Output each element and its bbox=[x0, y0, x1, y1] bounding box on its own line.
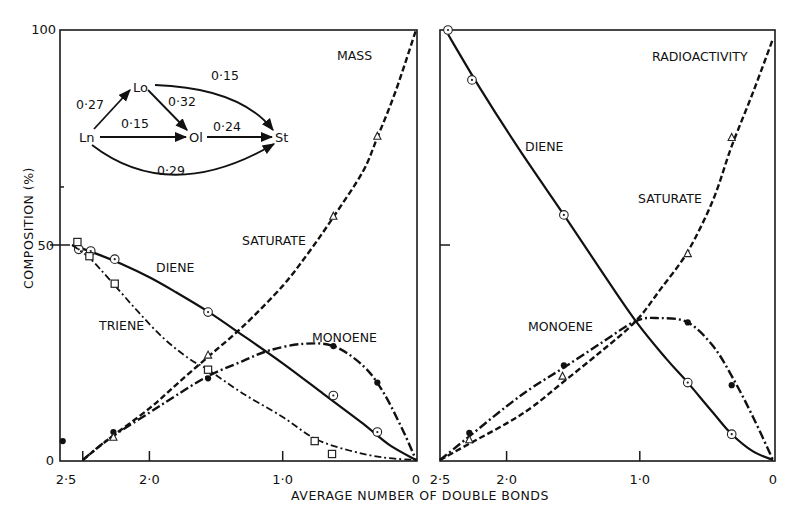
radioactivity-x-tick-label: 1·0 bbox=[629, 472, 650, 487]
diene-data-point bbox=[329, 391, 338, 400]
saturate-curve bbox=[440, 39, 773, 460]
monoene-curve-label: MONOENE bbox=[312, 330, 377, 345]
monoene-curve-label: MONOENE bbox=[528, 319, 593, 334]
radioactivity-diene-series: DIENE bbox=[444, 26, 773, 460]
triene-data-point bbox=[328, 450, 335, 457]
monoene-curve bbox=[83, 343, 416, 460]
monoene-data-point bbox=[374, 380, 380, 386]
mass-x-tick-label: 2·0 bbox=[139, 472, 160, 487]
rate-ol-st: 0·24 bbox=[213, 119, 241, 134]
triene-data-point bbox=[86, 253, 93, 260]
diene-data-point bbox=[727, 430, 736, 439]
mass-x-tick-label: 1·0 bbox=[272, 472, 293, 487]
figure: COMPOSITION (%) 100 50 0 2·52·01·00MASSD… bbox=[0, 0, 797, 513]
saturate-data-point bbox=[559, 372, 566, 379]
mass-x-tick-label: 2·5 bbox=[56, 472, 77, 487]
node-lo: Lo bbox=[133, 80, 148, 95]
radioactivity-monoene-series: MONOENE bbox=[440, 318, 773, 460]
monoene-data-point bbox=[561, 362, 567, 368]
rate-lo-st: 0·15 bbox=[211, 68, 239, 83]
triene-data-point bbox=[311, 437, 318, 444]
monoene-data-point bbox=[205, 375, 211, 381]
rate-ln-lo: 0·27 bbox=[76, 97, 104, 112]
diene-curve-label: DIENE bbox=[525, 139, 564, 154]
mass-plot-frame bbox=[60, 30, 417, 461]
node-st: St bbox=[275, 130, 288, 145]
node-ln: Ln bbox=[79, 130, 94, 145]
mass-triene-series: TRIENE bbox=[72, 238, 416, 460]
monoene-data-point bbox=[685, 319, 691, 325]
diene-data-point bbox=[373, 428, 382, 437]
mass-x-tick-label: 0 bbox=[412, 472, 420, 487]
monoene-data-point bbox=[729, 382, 735, 388]
diene-curve bbox=[448, 34, 773, 460]
diene-data-point bbox=[444, 26, 453, 35]
triene-data-point bbox=[204, 366, 211, 373]
y-tick-label-0: 0 bbox=[46, 453, 54, 468]
triene-data-point bbox=[111, 280, 118, 287]
y-tick-label-100: 100 bbox=[31, 22, 56, 37]
radioactivity-plot-frame bbox=[440, 30, 775, 461]
triene-data-point bbox=[74, 238, 81, 245]
radioactivity-x-tick-label: 2·5 bbox=[430, 472, 451, 487]
radioactivity-x-tick-label: 2·0 bbox=[496, 472, 517, 487]
diene-curve-label: DIENE bbox=[156, 260, 195, 275]
radioactivity-panel: 2·52·01·00RADIOACTIVITYDIENEMONOENESATUR… bbox=[430, 26, 777, 487]
saturate-curve-label: SATURATE bbox=[242, 233, 306, 248]
y-axis-label: COMPOSITION (%) bbox=[21, 167, 36, 289]
diene-data-point bbox=[560, 211, 569, 220]
monoene-curve bbox=[440, 318, 773, 460]
node-ol: Ol bbox=[189, 130, 203, 145]
mass-panel: 2·52·01·00MASSDIENETRIENEMONOENESATURATE bbox=[50, 30, 420, 487]
saturate-data-point bbox=[684, 250, 691, 257]
radioactivity-panel-title: RADIOACTIVITY bbox=[652, 49, 748, 64]
rate-ln-st: 0·29 bbox=[157, 163, 185, 178]
saturate-data-point bbox=[466, 436, 473, 443]
radioactivity-x-tick-label: 0 bbox=[769, 472, 777, 487]
monoene-data-point bbox=[60, 438, 66, 444]
saturate-curve-label: SATURATE bbox=[638, 191, 702, 206]
reaction-scheme-diagram: Ln Lo Ol St 0·27 0·32 0·15 0·15 0·24 0·2… bbox=[76, 68, 288, 178]
diene-data-point bbox=[110, 255, 119, 264]
triene-curve-label: TRIENE bbox=[98, 318, 144, 333]
saturate-data-point bbox=[374, 132, 381, 139]
mass-panel-title: MASS bbox=[337, 48, 372, 63]
diene-data-point bbox=[468, 76, 477, 85]
diene-data-point bbox=[683, 378, 692, 387]
x-axis-label: AVERAGE NUMBER OF DOUBLE BONDS bbox=[291, 488, 549, 503]
rate-ln-ol: 0·15 bbox=[121, 116, 149, 131]
radioactivity-saturate-series: SATURATE bbox=[440, 39, 773, 460]
diene-data-point bbox=[204, 308, 213, 317]
rate-lo-ol: 0·32 bbox=[168, 94, 196, 109]
diene-data-point bbox=[74, 245, 83, 254]
